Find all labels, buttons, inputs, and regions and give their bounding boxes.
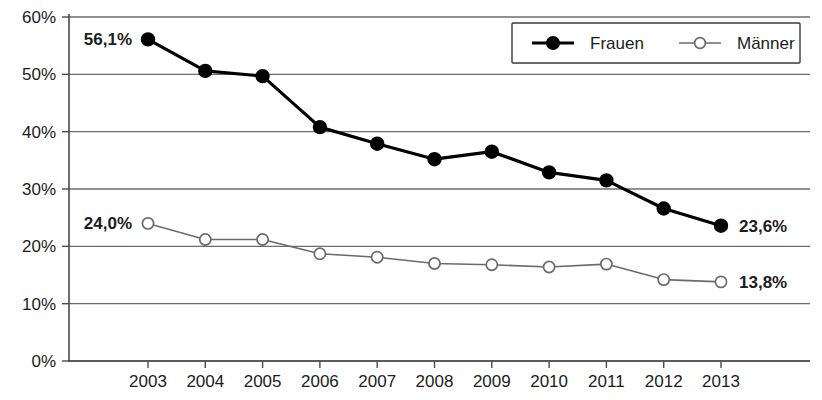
data-point — [715, 276, 726, 287]
legend: FrauenMänner — [512, 23, 800, 63]
series-line — [148, 39, 721, 225]
data-point — [428, 153, 440, 165]
data-point — [658, 202, 670, 214]
data-point — [658, 274, 669, 285]
gridlines — [69, 17, 810, 361]
x-tick-marks — [148, 361, 721, 368]
legend-filled-circle-icon — [547, 37, 559, 49]
data-point — [601, 259, 612, 270]
legend-label: Männer — [737, 34, 795, 53]
data-label: 23,6% — [739, 217, 787, 236]
data-point — [257, 234, 268, 245]
chart-canvas: 0%10%20%30%40%50%60% 2003200420052006200… — [0, 0, 822, 400]
y-tick-label: 30% — [22, 180, 56, 199]
data-point — [256, 70, 268, 82]
data-point — [600, 174, 612, 186]
data-point — [429, 258, 440, 269]
x-tick-label: 2003 — [129, 372, 167, 391]
x-tick-labels: 2003200420052006200720082009201020112012… — [129, 372, 740, 391]
x-tick-label: 2007 — [358, 372, 396, 391]
data-point — [314, 248, 325, 259]
series-line — [148, 223, 721, 282]
y-tick-marks — [62, 17, 69, 361]
data-label: 13,8% — [739, 273, 787, 292]
data-point — [486, 259, 497, 270]
x-tick-label: 2012 — [645, 372, 683, 391]
x-tick-label: 2005 — [244, 372, 282, 391]
data-point — [543, 166, 555, 178]
y-tick-label: 60% — [22, 8, 56, 27]
y-tick-labels: 0%10%20%30%40%50%60% — [22, 8, 56, 371]
data-point — [715, 220, 727, 232]
data-point — [142, 218, 153, 229]
y-tick-label: 10% — [22, 295, 56, 314]
legend-open-circle-icon — [695, 38, 706, 49]
x-tick-label: 2006 — [301, 372, 339, 391]
y-tick-label: 20% — [22, 237, 56, 256]
data-point — [486, 146, 498, 158]
x-tick-label: 2008 — [416, 372, 454, 391]
y-tick-label: 50% — [22, 65, 56, 84]
legend-label: Frauen — [590, 34, 644, 53]
series-maenner — [142, 218, 726, 288]
data-point — [371, 138, 383, 150]
line-chart: 0%10%20%30%40%50%60% 2003200420052006200… — [0, 0, 822, 400]
data-point — [200, 234, 211, 245]
x-tick-label: 2004 — [186, 372, 224, 391]
x-tick-label: 2010 — [530, 372, 568, 391]
data-point — [544, 261, 555, 272]
x-tick-label: 2011 — [588, 372, 625, 391]
y-tick-label: 0% — [31, 352, 56, 371]
data-point — [372, 252, 383, 263]
x-tick-label: 2009 — [473, 372, 511, 391]
x-tick-label: 2013 — [702, 372, 740, 391]
data-point — [314, 121, 326, 133]
data-label: 24,0% — [84, 214, 132, 233]
data-point — [142, 33, 154, 45]
data-point — [199, 65, 211, 77]
data-label: 56,1% — [84, 30, 132, 49]
y-tick-label: 40% — [22, 123, 56, 142]
